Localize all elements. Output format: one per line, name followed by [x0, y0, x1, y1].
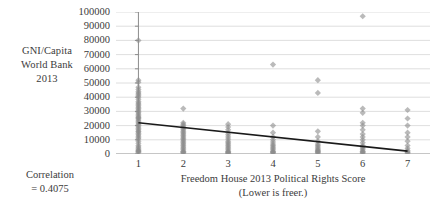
data-point [270, 61, 276, 67]
scatter-chart-figure: GNI/Capita World Bank 2013 Correlation =… [0, 0, 438, 208]
x-tick-label: 3 [226, 158, 231, 170]
x-axis-tick-labels: 1234567 [116, 156, 430, 172]
x-tick-label: 1 [136, 158, 141, 170]
data-point [404, 115, 410, 121]
x-axis-title-line-2: (Lower is freer.) [116, 186, 430, 200]
x-tick-label: 6 [360, 158, 365, 170]
x-tick-label: 5 [315, 158, 320, 170]
data-point [315, 77, 321, 83]
plot-canvas [116, 12, 430, 154]
y-tick-label: 40000 [84, 92, 110, 103]
y-tick-label: 70000 [84, 49, 110, 60]
plot-area [116, 12, 430, 154]
y-tick-label: 10000 [84, 135, 110, 146]
x-axis-title: Freedom House 2013 Political Rights Scor… [116, 172, 430, 200]
data-point [315, 128, 321, 134]
y-tick-label: 50000 [84, 78, 110, 89]
x-tick-label: 2 [181, 158, 186, 170]
data-point [404, 123, 410, 129]
y-tick-label: 100000 [79, 7, 111, 18]
data-point [404, 107, 410, 113]
data-point [360, 110, 366, 116]
y-tick-label: 60000 [84, 64, 110, 75]
x-tick-label: 7 [405, 158, 410, 170]
x-axis-title-line-1: Freedom House 2013 Political Rights Scor… [116, 172, 430, 186]
y-tick-label: 30000 [84, 106, 110, 117]
y-axis-tick-labels: 0100002000030000400005000060000700008000… [60, 0, 114, 208]
data-point [270, 123, 276, 129]
data-point [360, 13, 366, 19]
y-tick-label: 90000 [84, 21, 110, 32]
y-tick-label: 20000 [84, 120, 110, 131]
data-point [180, 105, 186, 111]
data-series-countries [135, 13, 410, 154]
x-tick-label: 4 [270, 158, 275, 170]
data-point [315, 90, 321, 96]
y-tick-label: 80000 [84, 35, 110, 46]
data-point [135, 37, 141, 43]
y-tick-label: 0 [105, 149, 110, 160]
